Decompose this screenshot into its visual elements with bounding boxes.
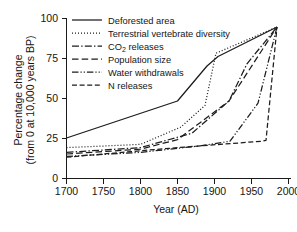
x-axis-title: Year (AD) bbox=[153, 203, 199, 215]
y-tick-labels: 0 25 50 75 100 bbox=[40, 12, 58, 184]
chart-legend: Deforested area Terrestrial vertebrate d… bbox=[72, 16, 230, 91]
x-axis-ticks bbox=[67, 179, 289, 184]
legend-label-n-releases: N releases bbox=[108, 81, 153, 91]
y-tick-label-75: 75 bbox=[46, 52, 58, 64]
y-tick-label-100: 100 bbox=[40, 12, 58, 24]
legend-label-co2-releases: CO2 releases bbox=[108, 42, 164, 53]
legend-label-water-withdrawals: Water withdrawals bbox=[108, 68, 184, 78]
y-axis-ticks bbox=[62, 19, 67, 179]
x-tick-label-1750: 1750 bbox=[92, 185, 116, 197]
x-tick-label-1850: 1850 bbox=[166, 185, 190, 197]
x-tick-label-2000: 2000 bbox=[277, 185, 297, 197]
x-tick-label-1900: 1900 bbox=[203, 185, 227, 197]
y-tick-label-50: 50 bbox=[46, 92, 58, 104]
series-terrestrial-vertebrate-diversity bbox=[67, 27, 278, 148]
y-tick-label-0: 0 bbox=[52, 172, 58, 184]
x-tick-label-1800: 1800 bbox=[129, 185, 153, 197]
x-tick-label-1950: 1950 bbox=[240, 185, 264, 197]
legend-label-terrestrial-vertebrate-diversity: Terrestrial vertebrate diversity bbox=[108, 29, 230, 39]
legend-label-population-size: Population size bbox=[108, 55, 171, 65]
x-tick-label-1700: 1700 bbox=[55, 185, 79, 197]
legend-label-co2-prefix: CO bbox=[108, 42, 122, 52]
y-axis-title-line1: Percentage change bbox=[12, 54, 24, 145]
legend-label-deforested-area: Deforested area bbox=[108, 16, 175, 26]
chart-figure: 0 25 50 75 100 1700 1750 1800 1850 1900 … bbox=[0, 0, 297, 232]
x-tick-labels: 1700 1750 1800 1850 1900 1950 2000 bbox=[55, 185, 297, 197]
y-tick-label-25: 25 bbox=[46, 132, 58, 144]
y-axis-title-line2: (from 0 at 10,000 years BP) bbox=[24, 36, 36, 165]
chart-svg: 0 25 50 75 100 1700 1750 1800 1850 1900 … bbox=[0, 0, 297, 232]
series-deforested-area bbox=[67, 27, 278, 138]
legend-label-co2-suffix: releases bbox=[126, 42, 164, 52]
chart-axes bbox=[62, 18, 292, 184]
